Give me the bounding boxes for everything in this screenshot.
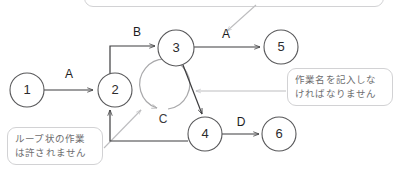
node-6-label: 6 (275, 126, 282, 141)
node-5[interactable]: 5 (264, 30, 298, 64)
diagram-canvas: C A B A D 1 2 3 (0, 0, 401, 169)
node-6[interactable]: 6 (262, 117, 296, 151)
node-4[interactable]: 4 (188, 117, 222, 151)
node-3[interactable]: 3 (158, 30, 194, 66)
node-3-label: 3 (172, 40, 179, 55)
node-2[interactable]: 2 (98, 73, 132, 107)
node-4-label: 4 (201, 126, 208, 141)
node-1-label: 1 (23, 82, 30, 97)
callout-loop-not-allowed: ループ状の作業 は許されません (7, 127, 103, 165)
callout-task-name-required: 作業名を記入しな ければなりません (287, 68, 393, 106)
node-5-label: 5 (277, 39, 284, 54)
node-1[interactable]: 1 (10, 73, 44, 107)
node-2-label: 2 (111, 82, 118, 97)
